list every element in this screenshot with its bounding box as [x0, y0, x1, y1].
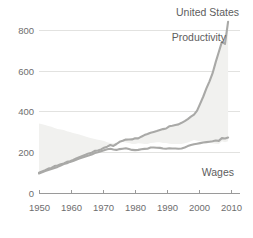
plot-area — [39, 22, 228, 174]
ytick-label-200: 200 — [18, 147, 34, 158]
xtick-label-1960: 1960 — [61, 202, 82, 213]
xtick-label-1970: 1970 — [93, 202, 114, 213]
xtick-label-1950: 1950 — [29, 202, 50, 213]
xtick-label-2010: 2010 — [221, 202, 242, 213]
x-axis-tick-labels: 1950 1960 1970 1980 1990 2000 2010 — [29, 202, 242, 213]
axes — [39, 190, 240, 194]
series-label-productivity: Productivity — [172, 31, 227, 43]
ytick-label-600: 600 — [18, 66, 34, 77]
productivity-wages-line-chart: 800 600 400 200 0 1950 1960 1970 1980 19… — [0, 0, 253, 238]
series-label-wages: Wages — [202, 166, 234, 178]
y-axis-tick-labels: 800 600 400 200 0 — [18, 25, 34, 199]
chart-container: 800 600 400 200 0 1950 1960 1970 1980 19… — [0, 0, 253, 238]
ytick-label-400: 400 — [18, 106, 34, 117]
xtick-label-1980: 1980 — [125, 202, 146, 213]
ytick-label-0: 0 — [29, 188, 34, 199]
xtick-label-2000: 2000 — [189, 202, 210, 213]
xtick-label-1990: 1990 — [157, 202, 178, 213]
ytick-label-800: 800 — [18, 25, 34, 36]
chart-title: United States — [176, 6, 239, 18]
